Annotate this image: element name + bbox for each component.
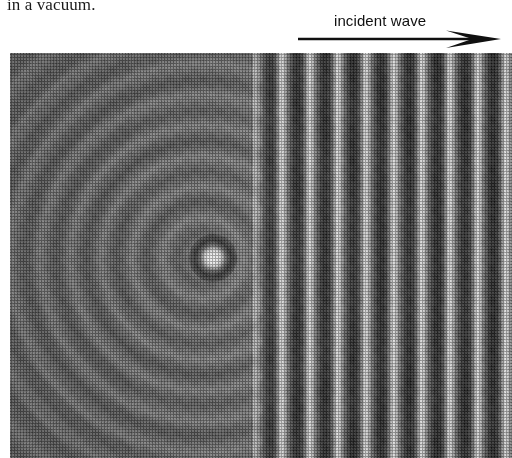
print-grain-texture xyxy=(10,53,512,458)
wave-scattering-photograph xyxy=(10,53,512,458)
incident-wave-annotation: incident wave xyxy=(296,12,508,48)
incident-wave-label: incident wave xyxy=(334,12,426,29)
caption-top-text: in a vacuum. xyxy=(7,0,96,14)
arrow-right-icon xyxy=(296,30,504,50)
photo-left-margin xyxy=(0,53,10,458)
figure-page: in a vacuum. incident wave xyxy=(0,0,512,458)
